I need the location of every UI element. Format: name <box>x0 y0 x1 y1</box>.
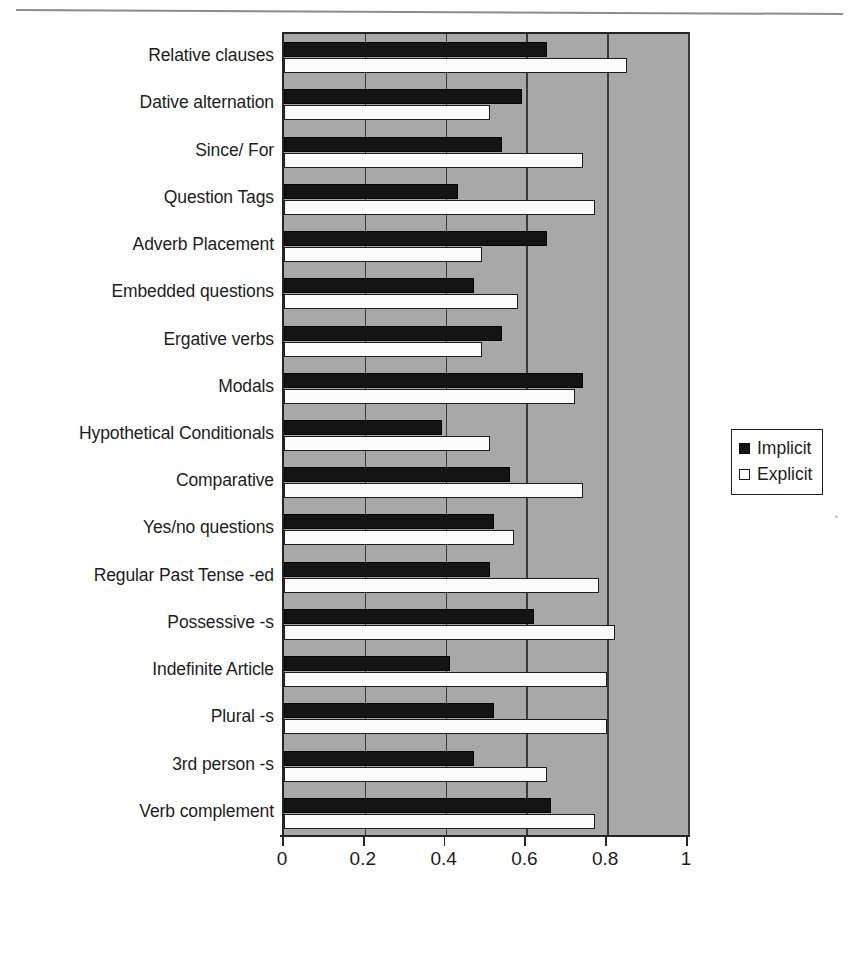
category-label: Since/ For <box>10 126 282 173</box>
bar-implicit <box>284 703 494 718</box>
gridline <box>688 34 690 837</box>
category-label: Hypothetical Conditionals <box>10 410 282 457</box>
x-tickmark <box>686 837 688 846</box>
bar-implicit <box>284 231 547 246</box>
bar-rows <box>284 34 688 837</box>
category-label: 3rd person -s <box>10 741 282 788</box>
bar-explicit <box>284 814 595 829</box>
x-tick-label: 0 <box>277 848 288 870</box>
bar-implicit <box>284 467 510 482</box>
bar-group <box>284 459 688 506</box>
bar-implicit <box>284 184 458 199</box>
category-label: Indefinite Article <box>10 646 282 693</box>
bar-explicit <box>284 672 607 687</box>
bar-group <box>284 34 688 81</box>
open-square-icon <box>739 469 750 480</box>
bar-explicit <box>284 58 627 73</box>
x-axis-tick-labels: 00.20.40.60.81 <box>282 848 686 876</box>
scan-speck <box>835 515 838 518</box>
bar-group <box>284 81 688 128</box>
bar-explicit <box>284 200 595 215</box>
bar-group <box>284 270 688 317</box>
x-tickmark <box>363 837 365 846</box>
bar-implicit <box>284 137 502 152</box>
grouped-bar-chart: Relative clausesDative alternationSince/… <box>0 18 859 948</box>
x-tick-label: 0.6 <box>511 848 537 870</box>
category-label: Adverb Placement <box>10 221 282 268</box>
x-tick-label: 0.4 <box>430 848 456 870</box>
bar-implicit <box>284 89 522 104</box>
bar-explicit <box>284 719 607 734</box>
bar-group <box>284 128 688 175</box>
x-tick-label: 0.8 <box>592 848 618 870</box>
bar-implicit <box>284 514 494 529</box>
x-tickmark <box>605 837 607 846</box>
bar-group <box>284 601 688 648</box>
category-label: Plural -s <box>10 693 282 740</box>
legend-label: Implicit <box>757 435 811 461</box>
bar-implicit <box>284 278 474 293</box>
legend-label: Explicit <box>757 461 812 487</box>
category-label: Possessive -s <box>10 599 282 646</box>
bar-implicit <box>284 562 490 577</box>
x-axis-tickmarks <box>282 837 686 847</box>
bar-group <box>284 743 688 790</box>
bar-group <box>284 790 688 837</box>
bar-group <box>284 506 688 553</box>
bar-explicit <box>284 483 583 498</box>
bar-explicit <box>284 153 583 168</box>
bar-implicit <box>284 420 442 435</box>
plot-area <box>282 32 690 837</box>
bar-group <box>284 695 688 742</box>
bar-implicit <box>284 609 534 624</box>
bar-explicit <box>284 342 482 357</box>
bar-group <box>284 648 688 695</box>
bar-explicit <box>284 105 490 120</box>
x-tickmark <box>524 837 526 846</box>
bar-group <box>284 412 688 459</box>
x-tickmark <box>444 837 446 846</box>
bar-group <box>284 554 688 601</box>
bar-explicit <box>284 625 615 640</box>
x-tick-label: 1 <box>681 848 692 870</box>
category-label: Yes/no questions <box>10 504 282 551</box>
bar-explicit <box>284 389 575 404</box>
bar-group <box>284 365 688 412</box>
bar-implicit <box>284 751 474 766</box>
bar-implicit <box>284 656 450 671</box>
bar-implicit <box>284 326 502 341</box>
bar-group <box>284 223 688 270</box>
bar-implicit <box>284 798 551 813</box>
category-axis-labels: Relative clausesDative alternationSince/… <box>10 32 282 835</box>
bar-group <box>284 317 688 364</box>
category-label: Question Tags <box>10 174 282 221</box>
x-tick-label: 0.2 <box>350 848 376 870</box>
legend-item-implicit: Implicit <box>739 435 812 461</box>
chart-legend: ImplicitExplicit <box>731 429 823 495</box>
category-label: Comparative <box>10 457 282 504</box>
filled-square-icon <box>739 443 750 454</box>
bar-explicit <box>284 436 490 451</box>
category-label: Verb complement <box>10 788 282 835</box>
category-label: Embedded questions <box>10 268 282 315</box>
bar-explicit <box>284 247 482 262</box>
bar-group <box>284 176 688 223</box>
bar-explicit <box>284 530 514 545</box>
bar-implicit <box>284 42 547 57</box>
legend-item-explicit: Explicit <box>739 461 812 487</box>
category-label: Relative clauses <box>10 32 282 79</box>
category-label: Modals <box>10 363 282 410</box>
category-label: Dative alternation <box>10 79 282 126</box>
x-tickmark <box>282 837 284 846</box>
bar-explicit <box>284 578 599 593</box>
bar-explicit <box>284 294 518 309</box>
category-label: Ergative verbs <box>10 315 282 362</box>
bar-implicit <box>284 373 583 388</box>
bar-explicit <box>284 767 547 782</box>
category-label: Regular Past Tense -ed <box>10 552 282 599</box>
